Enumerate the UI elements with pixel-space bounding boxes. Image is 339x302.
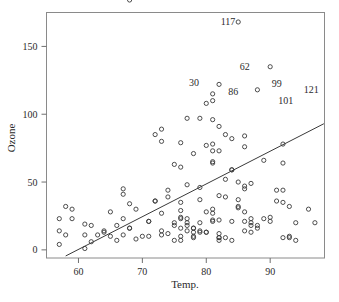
data-point — [236, 198, 240, 202]
data-point — [281, 236, 285, 240]
data-point — [172, 162, 176, 166]
x-axis-label: Temp. — [171, 278, 199, 290]
data-point — [179, 238, 183, 242]
data-point — [121, 217, 125, 221]
data-point — [108, 210, 112, 214]
data-point — [159, 127, 163, 131]
data-point — [217, 124, 221, 128]
data-point — [83, 222, 87, 226]
data-point — [64, 204, 68, 208]
data-point — [64, 233, 68, 237]
data-point — [211, 207, 215, 211]
point-annotation-label: 86 — [228, 86, 238, 97]
data-point — [204, 230, 208, 234]
y-axis-ticks: 050100150 — [23, 41, 47, 255]
data-point — [243, 229, 247, 233]
data-point — [211, 142, 215, 146]
data-point — [211, 149, 215, 153]
data-point — [185, 183, 189, 187]
data-point — [249, 217, 253, 221]
data-point — [179, 226, 183, 230]
data-point — [134, 207, 138, 211]
data-point — [217, 218, 221, 222]
data-point — [243, 210, 247, 214]
x-axis-ticks: 60708090 — [73, 258, 275, 277]
data-point — [185, 223, 189, 227]
data-point — [166, 195, 170, 199]
data-point — [127, 202, 131, 206]
data-point — [191, 151, 195, 155]
data-point — [159, 211, 163, 215]
data-point — [179, 165, 183, 169]
data-point — [204, 210, 208, 214]
data-point — [159, 139, 163, 143]
point-annotation-label: 121 — [304, 84, 319, 95]
data-point — [57, 242, 61, 246]
data-point — [121, 192, 125, 196]
data-point — [179, 200, 183, 204]
data-point — [217, 82, 221, 86]
data-point — [166, 188, 170, 192]
data-point — [153, 199, 157, 203]
y-axis-label: Ozone — [5, 124, 17, 153]
data-point — [179, 141, 183, 145]
data-point — [217, 194, 221, 198]
data-point — [159, 233, 163, 237]
data-point — [262, 158, 266, 162]
data-point — [121, 233, 125, 237]
data-point — [211, 92, 215, 96]
data-point — [313, 221, 317, 225]
data-point — [147, 219, 151, 223]
data-point — [217, 238, 221, 242]
data-point — [287, 204, 291, 208]
data-point — [223, 195, 227, 199]
data-point — [70, 217, 74, 221]
data-point — [294, 238, 298, 242]
data-point — [172, 238, 176, 242]
data-point — [255, 223, 259, 227]
data-point — [57, 229, 61, 233]
point-annotation-label: 101 — [278, 95, 293, 106]
data-point — [230, 137, 234, 141]
plot-canvas: 60708090 050100150 11762309986101121 Tem… — [0, 0, 339, 302]
scatter-plot-figure: 60708090 050100150 11762309986101121 Tem… — [0, 0, 339, 302]
data-point — [172, 223, 176, 227]
point-annotation-label: 30 — [189, 77, 199, 88]
data-point — [243, 145, 247, 149]
data-point — [191, 226, 195, 230]
data-point — [274, 188, 278, 192]
data-points — [57, 0, 317, 251]
x-tick-label: 90 — [265, 266, 275, 277]
data-point — [83, 233, 87, 237]
data-point — [166, 231, 170, 235]
data-point — [179, 234, 183, 238]
data-point — [198, 221, 202, 225]
y-tick-label: 100 — [23, 109, 38, 120]
data-point — [281, 161, 285, 165]
data-point — [281, 200, 285, 204]
y-tick-label: 50 — [28, 177, 38, 188]
data-point — [262, 217, 266, 221]
data-point — [243, 184, 247, 188]
data-point — [268, 215, 272, 219]
point-annotation-label: 99 — [272, 78, 282, 89]
data-point — [115, 223, 119, 227]
data-point — [268, 65, 272, 69]
data-point — [204, 143, 208, 147]
data-point — [185, 229, 189, 233]
data-point — [108, 234, 112, 238]
data-point — [274, 199, 278, 203]
data-point — [89, 223, 93, 227]
x-tick-label: 60 — [73, 266, 83, 277]
x-tick-label: 70 — [137, 266, 147, 277]
data-point — [249, 223, 253, 227]
data-point — [96, 233, 100, 237]
data-point — [211, 118, 215, 122]
y-tick-label: 0 — [33, 244, 38, 255]
data-point — [294, 221, 298, 225]
data-point — [255, 88, 259, 92]
data-point — [127, 0, 131, 2]
data-point — [268, 219, 272, 223]
data-point — [249, 230, 253, 234]
data-point — [243, 134, 247, 138]
